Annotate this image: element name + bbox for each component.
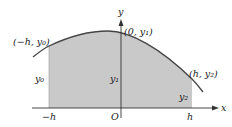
ordinate-label-y0: y₀ — [34, 73, 44, 84]
y-axis-label: y — [117, 6, 124, 17]
tick-label-minus-h: −h — [42, 111, 56, 122]
point-label-middle: (0, y₁) — [124, 26, 153, 37]
point-label-left: (−h, y₀) — [13, 36, 50, 47]
x-axis-arrow-icon — [212, 106, 219, 111]
origin-label: O — [111, 111, 119, 122]
ordinate-label-y1: y₁ — [109, 73, 119, 84]
tick-label-h: h — [187, 111, 193, 122]
x-axis-label: x — [221, 102, 227, 113]
y-axis-arrow-icon — [119, 19, 124, 26]
point-label-right: (h, y₂) — [189, 68, 218, 79]
ordinate-label-y2: y₂ — [178, 91, 188, 102]
parabola-area-diagram: y x O −h h (−h, y₀) (0, y₁) (h, y₂) y₀ y… — [0, 0, 232, 127]
shaded-area — [49, 31, 192, 108]
